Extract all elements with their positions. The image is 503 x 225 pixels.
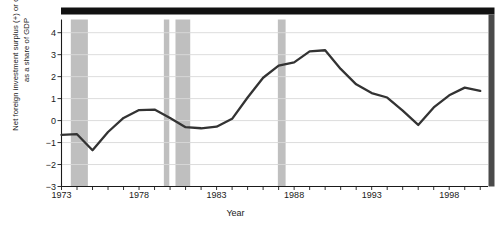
- x-tick-label-1973: 1973: [51, 190, 71, 200]
- recession-band-1974-1975: [71, 20, 88, 187]
- x-axis-label: Year: [0, 208, 503, 218]
- y-axis-ticks: [58, 33, 62, 187]
- x-tick-label-1978: 1978: [129, 190, 149, 200]
- right-border-bar: [489, 15, 495, 187]
- top-border-bar: [61, 8, 495, 15]
- recession-band-1990-1991: [278, 20, 286, 187]
- x-axis-label-text: Year: [226, 208, 244, 218]
- recession-band-1980: [164, 20, 169, 187]
- plot-area: [0, 0, 503, 225]
- x-tick-label-1993: 1993: [362, 190, 382, 200]
- x-tick-label-1988: 1988: [284, 190, 304, 200]
- chart-figure: Net foreign investment surplus (+) or de…: [0, 0, 503, 225]
- data-series-line: [62, 50, 481, 150]
- x-tick-label-1983: 1983: [207, 190, 227, 200]
- gridlines: [62, 33, 489, 187]
- x-tick-label-1998: 1998: [439, 190, 459, 200]
- recession-bands: [71, 20, 286, 187]
- recession-band-1981-1982: [175, 20, 190, 187]
